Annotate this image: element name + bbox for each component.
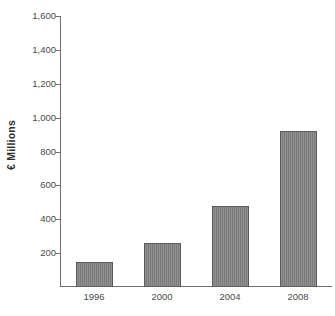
y-tick-label: 800 (14, 147, 56, 157)
caption-sliver (0, 309, 335, 316)
y-tick-label: 1,200 (14, 79, 56, 89)
y-tick-label: 1,000 (14, 113, 56, 123)
y-axis-tick-labels: 1,6001,4001,2001,000800600400200 (14, 0, 56, 290)
y-tick-label: 400 (14, 214, 56, 224)
bar (144, 243, 181, 287)
y-tick-label: 600 (14, 180, 56, 190)
plot-area (60, 16, 332, 287)
bar (76, 262, 113, 287)
caption-sliver-text (0, 309, 335, 316)
y-tick-label: 1,600 (14, 11, 56, 21)
y-tick-label: 1,400 (14, 45, 56, 55)
bar-chart-figure: € Millions 1,6001,4001,2001,000800600400… (0, 0, 335, 316)
bar (212, 206, 249, 287)
x-category-label: 2004 (196, 291, 264, 303)
x-category-label: 2008 (264, 291, 332, 303)
x-category-label: 2000 (128, 291, 196, 303)
x-category-label: 1996 (60, 291, 128, 303)
bar (280, 131, 317, 287)
bar-series (60, 16, 332, 287)
y-tick-label: 200 (14, 248, 56, 258)
x-axis-category-labels: 1996200020042008 (60, 291, 332, 307)
